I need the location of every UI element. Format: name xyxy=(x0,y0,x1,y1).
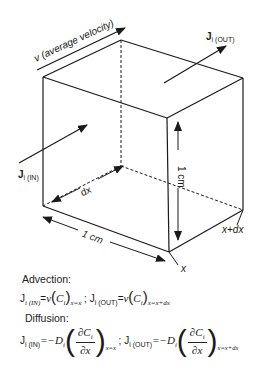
j-in-label: Ji (IN) xyxy=(18,169,39,182)
x-label: x xyxy=(180,263,187,274)
depth-label: 1 cm xyxy=(81,228,105,246)
depth-arrow-left xyxy=(43,217,78,230)
cube-edges xyxy=(43,40,243,252)
height-label: 1 cm xyxy=(176,166,187,188)
dx-arrow-left xyxy=(52,188,80,202)
j-in-arrow xyxy=(19,125,87,163)
dx-label: dx xyxy=(79,184,93,198)
x-leader xyxy=(169,252,178,265)
diffusion-equation: Ji (IN)=−Di(∂Ci∂x)x=x ; Ji (OUT)=−Di(∂Ci… xyxy=(20,326,238,356)
advection-equation: Ji (IN)=v(Ci)x=x ; Ji (OUT)=v(Ci)x=x+dx xyxy=(20,288,170,307)
velocity-label: v (average velocity) xyxy=(32,17,115,64)
hidden-edges xyxy=(43,40,243,210)
diffusion-heading: Diffusion: xyxy=(25,312,69,324)
depth-arrow-right xyxy=(110,242,165,261)
control-volume-diagram: v (average velocity) Ji (OUT) Ji (IN) dx… xyxy=(0,0,257,275)
j-out-label: Ji (OUT) xyxy=(206,31,235,44)
dx-arrow-right xyxy=(98,166,123,179)
j-out-arrow xyxy=(164,46,226,83)
x-plus-dx-label: x+dx xyxy=(221,224,244,235)
advection-heading: Advection: xyxy=(22,273,71,285)
